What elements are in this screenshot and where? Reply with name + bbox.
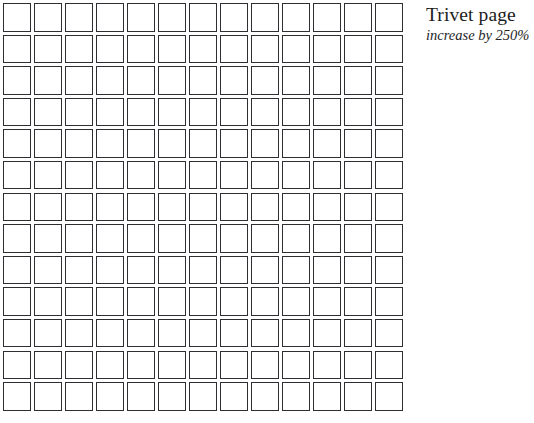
trivet-cell[interactable] — [65, 3, 93, 32]
trivet-cell[interactable] — [344, 35, 372, 64]
trivet-cell[interactable] — [65, 129, 93, 158]
trivet-cell[interactable] — [34, 351, 62, 380]
trivet-cell[interactable] — [96, 319, 124, 348]
trivet-cell[interactable] — [65, 35, 93, 64]
trivet-cell[interactable] — [3, 129, 31, 158]
trivet-cell[interactable] — [189, 193, 217, 222]
trivet-cell[interactable] — [282, 319, 310, 348]
trivet-cell[interactable] — [313, 129, 341, 158]
trivet-cell[interactable] — [282, 35, 310, 64]
trivet-cell[interactable] — [127, 382, 155, 411]
trivet-cell[interactable] — [344, 3, 372, 32]
trivet-cell[interactable] — [127, 129, 155, 158]
trivet-cell[interactable] — [189, 319, 217, 348]
trivet-cell[interactable] — [344, 382, 372, 411]
trivet-cell[interactable] — [189, 287, 217, 316]
trivet-cell[interactable] — [189, 35, 217, 64]
trivet-cell[interactable] — [65, 287, 93, 316]
trivet-cell[interactable] — [375, 319, 403, 348]
trivet-cell[interactable] — [344, 98, 372, 127]
trivet-cell[interactable] — [344, 129, 372, 158]
trivet-cell[interactable] — [3, 224, 31, 253]
trivet-cell[interactable] — [189, 351, 217, 380]
trivet-cell[interactable] — [220, 3, 248, 32]
trivet-cell[interactable] — [344, 161, 372, 190]
trivet-cell[interactable] — [282, 129, 310, 158]
trivet-cell[interactable] — [96, 382, 124, 411]
trivet-cell[interactable] — [313, 161, 341, 190]
trivet-cell[interactable] — [189, 161, 217, 190]
trivet-cell[interactable] — [158, 98, 186, 127]
trivet-cell[interactable] — [220, 224, 248, 253]
trivet-cell[interactable] — [34, 3, 62, 32]
trivet-cell[interactable] — [313, 351, 341, 380]
trivet-cell[interactable] — [34, 161, 62, 190]
trivet-cell[interactable] — [158, 161, 186, 190]
trivet-cell[interactable] — [189, 66, 217, 95]
trivet-cell[interactable] — [3, 161, 31, 190]
trivet-cell[interactable] — [313, 35, 341, 64]
trivet-cell[interactable] — [3, 382, 31, 411]
trivet-cell[interactable] — [251, 35, 279, 64]
trivet-cell[interactable] — [282, 3, 310, 32]
trivet-cell[interactable] — [96, 287, 124, 316]
trivet-cell[interactable] — [220, 287, 248, 316]
trivet-cell[interactable] — [65, 256, 93, 285]
trivet-cell[interactable] — [34, 256, 62, 285]
trivet-cell[interactable] — [65, 382, 93, 411]
trivet-cell[interactable] — [220, 256, 248, 285]
trivet-cell[interactable] — [3, 66, 31, 95]
trivet-cell[interactable] — [158, 319, 186, 348]
trivet-cell[interactable] — [127, 161, 155, 190]
trivet-cell[interactable] — [34, 193, 62, 222]
trivet-cell[interactable] — [96, 193, 124, 222]
trivet-cell[interactable] — [127, 3, 155, 32]
trivet-cell[interactable] — [220, 193, 248, 222]
trivet-cell[interactable] — [3, 351, 31, 380]
trivet-cell[interactable] — [127, 35, 155, 64]
trivet-cell[interactable] — [375, 193, 403, 222]
trivet-cell[interactable] — [344, 287, 372, 316]
trivet-cell[interactable] — [344, 351, 372, 380]
trivet-cell[interactable] — [313, 382, 341, 411]
trivet-cell[interactable] — [189, 3, 217, 32]
trivet-cell[interactable] — [344, 193, 372, 222]
trivet-cell[interactable] — [251, 256, 279, 285]
trivet-cell[interactable] — [189, 382, 217, 411]
trivet-cell[interactable] — [65, 193, 93, 222]
trivet-cell[interactable] — [220, 319, 248, 348]
trivet-cell[interactable] — [189, 256, 217, 285]
trivet-cell[interactable] — [251, 382, 279, 411]
trivet-cell[interactable] — [96, 161, 124, 190]
trivet-cell[interactable] — [282, 382, 310, 411]
trivet-cell[interactable] — [65, 98, 93, 127]
trivet-cell[interactable] — [158, 224, 186, 253]
trivet-cell[interactable] — [251, 3, 279, 32]
trivet-cell[interactable] — [96, 224, 124, 253]
trivet-cell[interactable] — [3, 98, 31, 127]
trivet-cell[interactable] — [189, 98, 217, 127]
trivet-cell[interactable] — [96, 351, 124, 380]
trivet-cell[interactable] — [313, 193, 341, 222]
trivet-cell[interactable] — [65, 351, 93, 380]
trivet-cell[interactable] — [251, 66, 279, 95]
trivet-cell[interactable] — [34, 319, 62, 348]
trivet-cell[interactable] — [344, 66, 372, 95]
trivet-cell[interactable] — [375, 35, 403, 64]
trivet-cell[interactable] — [375, 161, 403, 190]
trivet-cell[interactable] — [189, 224, 217, 253]
trivet-cell[interactable] — [96, 98, 124, 127]
trivet-cell[interactable] — [3, 3, 31, 32]
trivet-cell[interactable] — [158, 287, 186, 316]
trivet-cell[interactable] — [313, 224, 341, 253]
trivet-cell[interactable] — [158, 193, 186, 222]
trivet-cell[interactable] — [375, 256, 403, 285]
trivet-cell[interactable] — [313, 66, 341, 95]
trivet-cell[interactable] — [127, 98, 155, 127]
trivet-cell[interactable] — [375, 287, 403, 316]
trivet-cell[interactable] — [34, 98, 62, 127]
trivet-cell[interactable] — [313, 256, 341, 285]
trivet-cell[interactable] — [189, 129, 217, 158]
trivet-cell[interactable] — [220, 351, 248, 380]
trivet-cell[interactable] — [251, 193, 279, 222]
